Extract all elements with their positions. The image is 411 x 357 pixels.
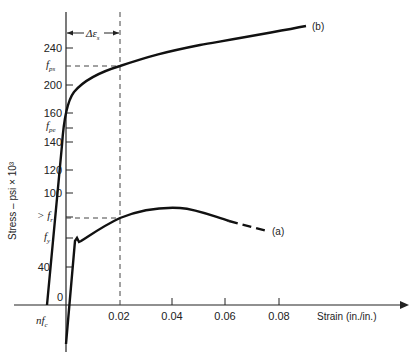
x-tick-0.08: 0.08	[268, 310, 289, 322]
label-fpe: fpe	[46, 119, 56, 134]
curve-a-label: (a)	[272, 226, 284, 237]
x-axis-label: Strain (in./in.)	[317, 311, 376, 322]
curve-a	[66, 208, 229, 344]
y-tick-40: 40	[38, 261, 50, 273]
y-tick-160: 160	[44, 107, 62, 119]
curve-a-dashed	[229, 221, 267, 231]
y-axis-label: Stress – psi × 10³	[7, 161, 18, 240]
y-tick-100: 100	[44, 187, 62, 199]
label-fy: fy	[44, 230, 51, 245]
y-tick-0: 0	[57, 291, 63, 303]
delta-strain-dimension: Δεs	[67, 27, 119, 42]
curve-b	[47, 26, 306, 305]
delta-label: Δεs	[85, 27, 100, 42]
arrow-left-icon	[67, 31, 73, 36]
curve-b-label: (b)	[312, 21, 324, 32]
x-tick-0.04: 0.04	[161, 310, 182, 322]
y-tick-240: 240	[44, 42, 62, 54]
label-fr: > fr	[37, 209, 53, 224]
stress-strain-chart: 240 200 160 140 120 100 40 0 fps fpe > f…	[0, 0, 411, 357]
x-ticks	[172, 298, 279, 305]
label-nfc: nfc	[36, 314, 49, 329]
chart-canvas: 240 200 160 140 120 100 40 0 fps fpe > f…	[0, 0, 411, 357]
y-ticks	[66, 48, 73, 267]
y-tick-200: 200	[44, 79, 62, 91]
x-tick-0.02: 0.02	[108, 310, 129, 322]
x-axis-arrow-icon	[400, 301, 409, 309]
y-tick-140: 140	[44, 136, 62, 148]
x-tick-0.06: 0.06	[214, 310, 235, 322]
arrow-right-icon	[113, 31, 119, 36]
label-fps: fps	[46, 58, 56, 73]
